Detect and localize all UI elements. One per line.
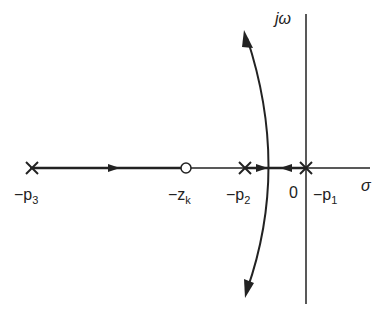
- imaginary-axis-label: jω: [273, 10, 291, 27]
- pole-label-p1: −p1: [313, 186, 337, 206]
- zero-label-zk: −zk: [168, 186, 191, 206]
- arrow-icon-up: [242, 30, 253, 48]
- origin-label: 0: [289, 184, 298, 201]
- real-axis-label: σ: [361, 177, 372, 194]
- zero-marker-zk: [181, 163, 191, 173]
- arrow-icon-right-1: [108, 164, 120, 172]
- arrow-icon-down: [244, 279, 254, 298]
- arrow-icon-right-2: [256, 164, 268, 172]
- pole-label-p3: −p3: [14, 186, 38, 206]
- root-locus-diagram: −p3 −zk −p2 0 −p1 σ jω: [0, 0, 385, 316]
- pole-label-p2: −p2: [226, 186, 250, 206]
- arrow-icon-left: [280, 164, 292, 172]
